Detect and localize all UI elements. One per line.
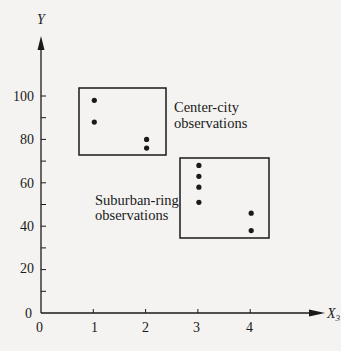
center-city-point-2 — [144, 137, 149, 142]
center-city-annotation-line2: observations — [174, 115, 248, 131]
suburban-ring-point-5 — [249, 228, 254, 233]
suburban-ring-point-1 — [196, 174, 201, 179]
y-axis-arrow-icon — [38, 36, 45, 50]
y-tick-label-80: 80 — [20, 132, 34, 147]
y-tick-label-40: 40 — [20, 219, 34, 234]
annotations: Center-city observations Suburban-ring o… — [95, 99, 248, 223]
y-tick-label-20: 20 — [20, 261, 34, 276]
tick-labels: Y X3 0 20 40 60 80 100 0 1 2 3 4 — [13, 12, 341, 335]
suburban-ring-point-2 — [196, 185, 201, 190]
y-tick-label-100: 100 — [13, 89, 34, 104]
suburban-ring-point-0 — [196, 163, 201, 168]
scatter-chart: Y X3 0 20 40 60 80 100 0 1 2 3 4 Center-… — [0, 0, 341, 351]
suburban-ring-annotation-line2: observations — [95, 207, 169, 223]
x-tick-label-4: 4 — [246, 320, 253, 335]
center-city-point-1 — [92, 119, 97, 124]
x-axis-label: X3 — [326, 306, 341, 323]
x-tick-label-3: 3 — [193, 320, 200, 335]
suburban-ring-annotation-line1: Suburban-ring — [95, 192, 179, 208]
center-city-point-3 — [144, 145, 149, 150]
axes — [38, 36, 326, 317]
suburban-ring-point-4 — [249, 211, 254, 216]
y-ticks — [41, 96, 46, 291]
x-tick-label-0: 0 — [36, 320, 43, 335]
center-city-annotation-line1: Center-city — [174, 99, 240, 115]
y-tick-label-0: 0 — [25, 306, 32, 321]
y-tick-label-60: 60 — [20, 176, 34, 191]
x-axis-arrow-icon — [309, 310, 325, 317]
suburban-ring-box — [180, 158, 269, 238]
center-city-point-0 — [92, 98, 97, 103]
x-tick-label-1: 1 — [91, 320, 98, 335]
suburban-ring-point-3 — [196, 200, 201, 205]
x-tick-label-2: 2 — [142, 320, 149, 335]
x-axis-label-subscript: 3 — [335, 313, 341, 323]
y-axis-label: Y — [37, 12, 47, 27]
